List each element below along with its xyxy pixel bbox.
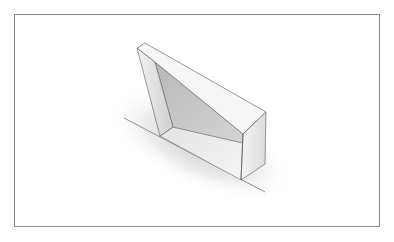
wedge-render [0,0,394,242]
